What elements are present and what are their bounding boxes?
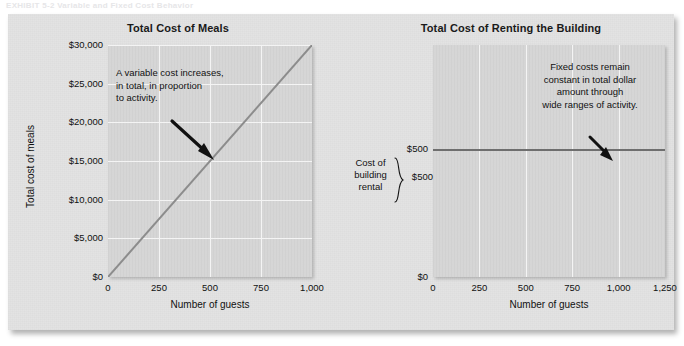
annotation-fixed-cost: Fixed costs remain constant in total dol… (520, 61, 660, 111)
brace-label-line-1: Cost of (348, 157, 393, 169)
xtick-500: 500 (518, 282, 534, 293)
fixed-cost-line (433, 149, 665, 151)
xtick-500: 500 (202, 282, 218, 293)
xtick-1000: 1,000 (607, 282, 631, 293)
ytick-30000: $30,000 (69, 40, 103, 50)
exhibit-caption: EXHIBIT 5-2 Variable and Fixed Cost Beha… (0, 0, 684, 12)
chart-total-cost-of-renting-the-building: Total Cost of Renting the Building $500 … (348, 14, 674, 330)
xtick-1000: 1,000 (300, 282, 324, 293)
xtick-750: 750 (564, 282, 580, 293)
annotation-line-3: amount through (520, 86, 660, 99)
ytick-0: $0 (92, 272, 103, 282)
brace-value: $500 (403, 171, 433, 182)
annotation-line-1: A variable cost increases, (116, 67, 266, 80)
ytick-500: $500 (407, 144, 428, 154)
x-axis-label-right: Number of guests (433, 299, 665, 310)
chart-right-title: Total Cost of Renting the Building (348, 22, 674, 34)
xtick-0: 0 (430, 282, 435, 293)
annotation-arrow-right-icon (586, 134, 620, 164)
xtick-250: 250 (471, 282, 487, 293)
xtick-750: 750 (253, 282, 269, 293)
y-axis-ticks-left: $30,000 $25,000 $20,000 $15,000 $10,000 … (34, 45, 103, 277)
figure-panel: Total Cost of Meals $30,000 $25,000 $20,… (8, 14, 674, 330)
cost-of-building-rental-callout: Cost of building rental $500 (348, 157, 436, 205)
chart-total-cost-of-meals: Total Cost of Meals $30,000 $25,000 $20,… (8, 14, 348, 330)
brace-label: Cost of building rental (348, 157, 393, 193)
ytick-0: $0 (417, 272, 428, 282)
xtick-250: 250 (151, 282, 167, 293)
annotation-line-3: to activity. (116, 92, 266, 105)
chart-left-title: Total Cost of Meals (8, 22, 348, 34)
ytick-25000: $25,000 (69, 79, 103, 89)
ytick-15000: $15,000 (69, 156, 103, 166)
x-axis-label-left: Number of guests (108, 299, 312, 310)
annotation-arrow-left-icon (168, 117, 222, 165)
annotation-line-2: constant in total dollar (520, 74, 660, 87)
annotation-line-2: in total, in proportion (116, 80, 266, 93)
annotation-variable-cost: A variable cost increases, in total, in … (116, 67, 266, 105)
xtick-1250: 1,250 (653, 282, 677, 293)
y-axis-label-left: Total cost of meals (25, 102, 36, 232)
brace-label-line-3: rental (348, 181, 393, 193)
xtick-0: 0 (105, 282, 110, 293)
gridline-v-250 (479, 45, 480, 277)
ytick-20000: $20,000 (69, 117, 103, 127)
annotation-line-4: wide ranges of activity. (520, 99, 660, 112)
ytick-10000: $10,000 (69, 195, 103, 205)
x-axis-ticks-left: 0 250 500 750 1,000 (108, 282, 312, 296)
annotation-line-1: Fixed costs remain (520, 61, 660, 74)
ytick-5000: $5,000 (74, 233, 103, 243)
x-axis-ticks-right: 0 250 500 750 1,000 1,250 (433, 282, 665, 296)
brace-label-line-2: building (348, 169, 393, 181)
